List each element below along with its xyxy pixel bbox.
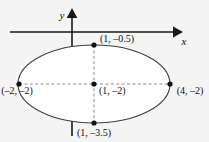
point-dot-center: [91, 81, 96, 86]
point-dot-right-vertex: [167, 81, 172, 86]
y-axis-label: y: [59, 9, 65, 21]
point-label-left-vertex: (–2, –2): [1, 85, 33, 97]
point-dot-top-covertex: [91, 42, 96, 47]
point-dot-bottom-covertex: [91, 120, 96, 125]
ellipse-figure: y x (1, –0.5) (–2, –2) (1, –2) (4, –2) (…: [0, 0, 209, 142]
point-label-bottom-covertex: (1, –3.5): [77, 127, 111, 139]
point-label-center: (1, –2): [99, 85, 126, 97]
point-label-top-covertex: (1, –0.5): [100, 33, 134, 45]
point-label-right-vertex: (4, –2): [177, 85, 204, 97]
ellipse-plot-canvas: y x (1, –0.5) (–2, –2) (1, –2) (4, –2) (…: [0, 0, 209, 142]
x-axis-label: x: [181, 35, 187, 47]
y-axis-arrowhead-icon: [67, 8, 78, 18]
